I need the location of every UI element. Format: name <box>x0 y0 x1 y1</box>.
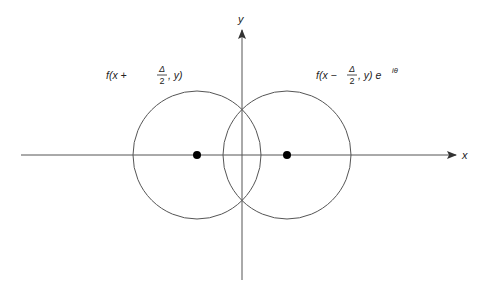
left-label-suffix: , y) <box>168 69 183 81</box>
right-label-frac-num: Δ <box>348 64 355 74</box>
x-axis-label: x <box>461 149 468 161</box>
left-circle-label: f(x + Δ 2 , y) <box>106 64 183 86</box>
right-center-dot <box>283 151 291 159</box>
y-axis-label: y <box>237 13 245 25</box>
left-center-dot <box>193 151 201 159</box>
right-label-frac-den: 2 <box>349 76 354 86</box>
right-label-suffix: , y) e <box>358 69 381 81</box>
left-label-frac-num: Δ <box>158 64 165 74</box>
right-label-exponent: iθ <box>392 66 398 75</box>
left-label-prefix: f(x + <box>106 69 127 81</box>
diagram-canvas: x y f(x + Δ 2 , y) f(x − Δ 2 , y) e iθ <box>0 0 482 291</box>
svg-text:f(x +: f(x + <box>106 69 127 81</box>
left-label-frac-den: 2 <box>159 76 164 86</box>
right-circle-label: f(x − Δ 2 , y) e iθ <box>316 64 398 86</box>
right-label-prefix: f(x − <box>316 69 337 81</box>
